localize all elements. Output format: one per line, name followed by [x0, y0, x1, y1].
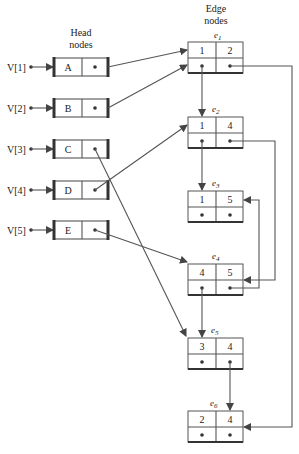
- head-node-value: D: [64, 185, 71, 196]
- edge-node-e3: e3 1 5: [188, 178, 243, 222]
- multilist-diagram: Head nodes Edge nodes V[1] A V[2] B V[3]…: [0, 0, 299, 454]
- head-node-row-5: V[5] E: [7, 220, 108, 240]
- edge-label: e6: [210, 398, 218, 410]
- edge-vertex2: 4: [228, 414, 233, 425]
- edge-label: e1: [214, 30, 222, 42]
- head-node-value: C: [65, 144, 72, 155]
- head-node-row-4: V[4] D: [7, 180, 108, 200]
- link-C-e5: [95, 149, 186, 336]
- edge-vertex2: 5: [228, 267, 233, 278]
- vertex-label: V[3]: [7, 144, 26, 155]
- head-node-value: E: [65, 225, 71, 236]
- edge-node-e5: e5 3 4: [188, 325, 243, 369]
- head-nodes-title-line2: nodes: [69, 39, 92, 50]
- edge-vertex1: 1: [200, 120, 205, 131]
- head-node-row-2: V[2] B: [7, 98, 108, 118]
- head-node-value: A: [64, 62, 72, 73]
- link-A-e1: [108, 50, 187, 67]
- edge-vertex1: 3: [200, 341, 205, 352]
- edge-vertex2: 4: [228, 120, 233, 131]
- edge-label: e5: [211, 325, 219, 337]
- link-B-e1: [108, 65, 187, 108]
- vertex-label: V[2]: [7, 103, 26, 114]
- vertex-label: V[5]: [7, 225, 26, 236]
- vertex-label: V[4]: [7, 185, 26, 196]
- vertex-label: V[1]: [7, 62, 26, 73]
- edge-vertex1: 1: [200, 194, 205, 205]
- head-node-value: B: [65, 103, 72, 114]
- edge-label: e4: [212, 251, 220, 263]
- head-node-row-3: V[3] C: [7, 139, 108, 159]
- edge-vertex1: 4: [200, 267, 205, 278]
- edge-label: e2: [212, 104, 220, 116]
- edge-nodes-title-line1: Edge: [206, 3, 227, 14]
- edge-node-e6: e6 2 4: [188, 398, 243, 442]
- edge-vertex2: 2: [228, 45, 233, 56]
- edge-vertex1: 2: [200, 414, 205, 425]
- edge-label: e3: [212, 178, 220, 190]
- head-nodes-title-line1: Head: [70, 27, 91, 38]
- edge-vertex2: 4: [228, 341, 233, 352]
- edge-nodes-title-line2: nodes: [204, 15, 227, 26]
- head-node-row-1: V[1] A: [7, 57, 108, 77]
- link-E-e4: [95, 230, 187, 262]
- edge-vertex2: 5: [228, 194, 233, 205]
- edge-vertex1: 1: [200, 45, 205, 56]
